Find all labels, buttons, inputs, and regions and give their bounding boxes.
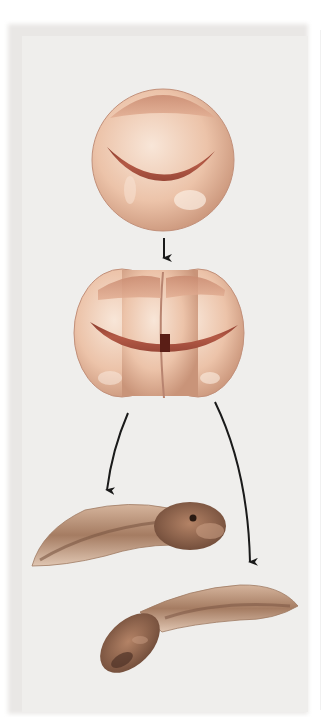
- tadpole-eye: [190, 515, 197, 522]
- arrow-to-left-tadpole: [107, 413, 128, 490]
- tadpole-right: [89, 585, 298, 684]
- tadpole-left: [32, 502, 226, 566]
- tadpole-tail: [140, 585, 298, 632]
- development-diagram: [0, 0, 329, 717]
- tadpole-tail: [32, 504, 172, 566]
- two-cell-embryo: [74, 269, 244, 398]
- zygote-cell: [92, 89, 234, 231]
- figure-canvas: [0, 0, 329, 717]
